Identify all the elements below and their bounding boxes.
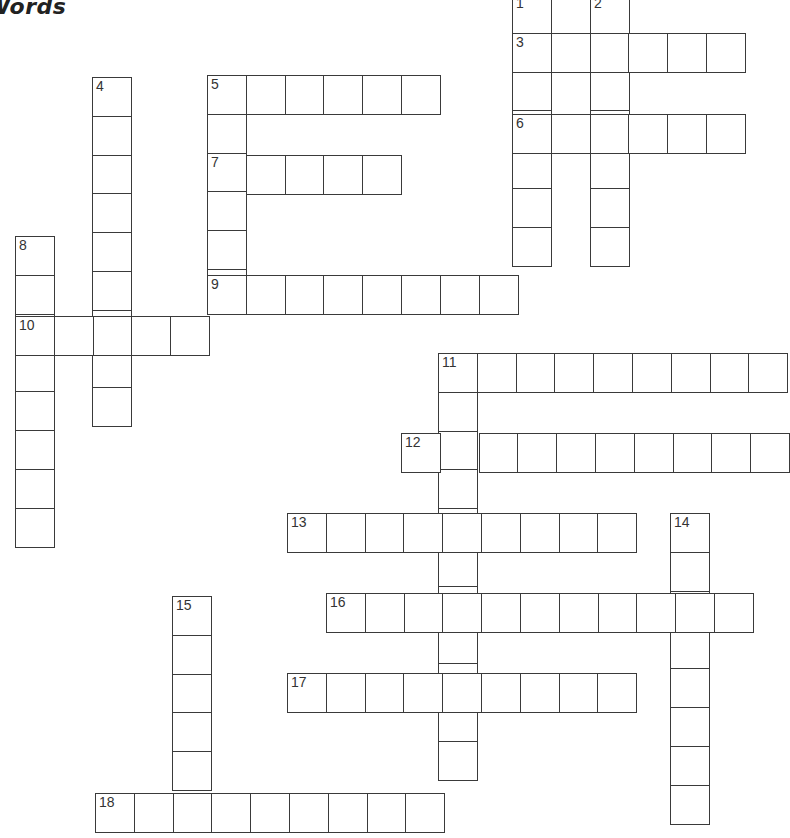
crossword-cell[interactable]	[15, 352, 55, 392]
crossword-cell[interactable]	[442, 593, 482, 633]
crossword-cell[interactable]	[365, 593, 405, 633]
crossword-cell[interactable]	[207, 230, 247, 270]
crossword-cell[interactable]	[15, 430, 55, 470]
crossword-cell[interactable]	[438, 547, 478, 587]
crossword-cell[interactable]	[326, 513, 366, 553]
crossword-cell[interactable]	[246, 275, 286, 315]
crossword-cell[interactable]: 14	[670, 513, 710, 553]
crossword-cell[interactable]	[207, 191, 247, 231]
crossword-cell[interactable]	[481, 513, 521, 553]
crossword-cell[interactable]	[92, 116, 132, 156]
crossword-cell[interactable]: 17	[287, 673, 327, 713]
crossword-cell[interactable]	[628, 33, 668, 73]
crossword-cell[interactable]	[520, 673, 560, 713]
crossword-cell[interactable]	[670, 746, 710, 786]
crossword-cell[interactable]	[250, 793, 290, 833]
crossword-cell[interactable]	[748, 353, 788, 393]
crossword-cell[interactable]	[632, 353, 672, 393]
crossword-cell[interactable]	[438, 392, 478, 432]
crossword-cell[interactable]	[172, 751, 212, 791]
crossword-cell[interactable]: 11	[438, 353, 478, 393]
crossword-cell[interactable]: 18	[95, 793, 135, 833]
crossword-cell[interactable]	[590, 33, 630, 73]
crossword-cell[interactable]	[670, 785, 710, 825]
crossword-cell[interactable]	[520, 593, 560, 633]
crossword-cell[interactable]	[481, 593, 521, 633]
crossword-cell[interactable]	[479, 275, 519, 315]
crossword-cell[interactable]	[512, 149, 552, 189]
crossword-cell[interactable]: 1	[512, 0, 552, 34]
crossword-cell[interactable]	[706, 33, 746, 73]
crossword-cell[interactable]	[362, 275, 402, 315]
crossword-cell[interactable]	[54, 316, 94, 356]
crossword-cell[interactable]	[512, 188, 552, 228]
crossword-cell[interactable]	[92, 232, 132, 272]
crossword-cell[interactable]	[438, 741, 478, 781]
crossword-cell[interactable]	[559, 513, 599, 553]
crossword-cell[interactable]	[714, 593, 754, 633]
crossword-cell[interactable]	[636, 593, 676, 633]
crossword-cell[interactable]	[671, 353, 711, 393]
crossword-cell[interactable]	[590, 149, 630, 189]
crossword-cell[interactable]: 12	[401, 433, 441, 473]
crossword-cell[interactable]	[326, 673, 366, 713]
crossword-cell[interactable]: 2	[590, 0, 630, 34]
crossword-cell[interactable]	[401, 75, 441, 115]
crossword-cell[interactable]	[285, 275, 325, 315]
crossword-cell[interactable]: 16	[326, 593, 366, 633]
crossword-cell[interactable]	[438, 469, 478, 509]
crossword-cell[interactable]	[554, 353, 594, 393]
crossword-cell[interactable]	[401, 275, 441, 315]
crossword-cell[interactable]	[246, 75, 286, 115]
crossword-cell[interactable]	[362, 155, 402, 195]
crossword-cell[interactable]	[590, 227, 630, 267]
crossword-cell[interactable]	[711, 433, 751, 473]
crossword-cell[interactable]	[92, 193, 132, 233]
crossword-cell[interactable]: 9	[207, 275, 247, 315]
crossword-cell[interactable]	[15, 508, 55, 548]
crossword-cell[interactable]	[92, 155, 132, 195]
crossword-cell[interactable]	[15, 391, 55, 431]
crossword-cell[interactable]	[15, 469, 55, 509]
crossword-cell[interactable]	[597, 673, 637, 713]
crossword-cell[interactable]	[520, 513, 560, 553]
crossword-cell[interactable]	[246, 155, 286, 195]
crossword-cell[interactable]	[93, 316, 133, 356]
crossword-cell[interactable]	[670, 552, 710, 592]
crossword-cell[interactable]	[172, 635, 212, 675]
crossword-cell[interactable]	[593, 353, 633, 393]
crossword-cell[interactable]	[516, 353, 556, 393]
crossword-cell[interactable]	[367, 793, 407, 833]
crossword-cell[interactable]	[362, 75, 402, 115]
crossword-cell[interactable]	[706, 114, 746, 154]
crossword-cell[interactable]	[172, 674, 212, 714]
crossword-cell[interactable]	[675, 593, 715, 633]
crossword-cell[interactable]	[172, 712, 212, 752]
crossword-cell[interactable]	[710, 353, 750, 393]
crossword-cell[interactable]	[750, 433, 790, 473]
crossword-cell[interactable]	[15, 275, 55, 315]
crossword-cell[interactable]	[559, 593, 599, 633]
crossword-cell[interactable]	[628, 114, 668, 154]
crossword-cell[interactable]	[365, 513, 405, 553]
crossword-cell[interactable]	[442, 513, 482, 553]
crossword-cell[interactable]	[590, 72, 630, 112]
crossword-cell[interactable]	[440, 275, 480, 315]
crossword-cell[interactable]	[92, 387, 132, 427]
crossword-cell[interactable]: 10	[15, 316, 55, 356]
crossword-cell[interactable]: 8	[15, 236, 55, 276]
crossword-cell[interactable]: 7	[207, 153, 247, 193]
crossword-cell[interactable]	[590, 114, 630, 154]
crossword-cell[interactable]	[673, 433, 713, 473]
crossword-cell[interactable]	[670, 629, 710, 669]
crossword-cell[interactable]	[289, 793, 329, 833]
crossword-cell[interactable]: 13	[287, 513, 327, 553]
crossword-cell[interactable]	[597, 513, 637, 553]
crossword-cell[interactable]	[590, 188, 630, 228]
crossword-cell[interactable]	[403, 513, 443, 553]
crossword-cell[interactable]	[670, 668, 710, 708]
crossword-cell[interactable]	[667, 33, 707, 73]
crossword-cell[interactable]	[556, 433, 596, 473]
crossword-cell[interactable]: 6	[512, 114, 552, 154]
crossword-cell[interactable]	[404, 593, 444, 633]
